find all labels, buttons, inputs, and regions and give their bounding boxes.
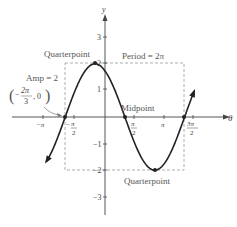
svg-text:2π: 2π bbox=[21, 86, 30, 95]
pointer-arrow-icon bbox=[57, 113, 62, 117]
svg-text:): ) bbox=[45, 87, 50, 105]
svg-text:(: ( bbox=[9, 87, 14, 105]
svg-text:−: − bbox=[15, 90, 20, 99]
period-label: Period = 2π bbox=[122, 51, 165, 61]
y-axis-arrow-icon bbox=[103, 14, 108, 21]
midpoint-dot bbox=[123, 115, 127, 119]
amplitude-label: Amp = 2 bbox=[26, 73, 58, 83]
x-ticks: −π − π 2 π 2 π 3π 2 bbox=[36, 115, 198, 137]
x-tick-neg-half-pi-num: π bbox=[71, 120, 75, 128]
svg-text:, 0: , 0 bbox=[33, 92, 41, 101]
midpoint-label: Midpoint bbox=[121, 103, 155, 113]
x-tick-three-half-pi-num: 3π bbox=[186, 120, 195, 128]
x-tick-three-half-pi-den: 2 bbox=[190, 129, 194, 137]
top-quarterpoint-dot bbox=[93, 61, 97, 65]
y-tick-neg3: −3 bbox=[93, 193, 102, 202]
svg-text:3: 3 bbox=[24, 97, 28, 106]
top-quarterpoint-label: Quarterpoint bbox=[44, 49, 90, 59]
x-tick-neg-pi: −π bbox=[36, 121, 45, 129]
y-tick-1: 1 bbox=[97, 85, 101, 94]
x-tick-pi: π bbox=[161, 121, 165, 129]
y-axis-label: y bbox=[101, 5, 106, 14]
y-tick-3: 3 bbox=[97, 33, 101, 42]
curve-left-arrow-icon bbox=[45, 155, 52, 163]
y-tick-neg2: −2 bbox=[93, 166, 102, 175]
end-zero-point bbox=[182, 115, 186, 119]
start-point-label: ( − 2π 3 , 0 ) bbox=[9, 86, 50, 106]
y-tick-neg1: −1 bbox=[93, 140, 102, 149]
bottom-quarterpoint-dot bbox=[153, 168, 157, 172]
x-tick-half-pi-num: π bbox=[131, 120, 135, 128]
bottom-quarterpoint-label: Quarterpoint bbox=[124, 176, 170, 186]
x-tick-neg-half-pi-sign: − bbox=[66, 121, 70, 129]
x-tick-neg-half-pi-den: 2 bbox=[72, 129, 76, 137]
sinusoid-chart: θ y 3 2 1 −1 −2 −3 −π − π 2 π 2 π bbox=[0, 0, 237, 227]
start-zero-point bbox=[63, 115, 67, 119]
curve-right-arrow-icon bbox=[189, 89, 195, 98]
x-axis-label: θ bbox=[228, 113, 233, 123]
